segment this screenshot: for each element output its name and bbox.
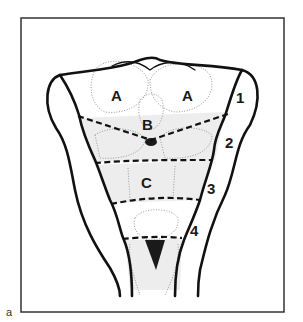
anatomical-diagram: A A B C 1 2 3 4 a bbox=[0, 0, 303, 322]
region-label-a-left: A bbox=[111, 87, 122, 104]
region-label-c: C bbox=[141, 174, 152, 191]
level-label-4: 4 bbox=[190, 222, 199, 239]
level-label-2: 2 bbox=[225, 134, 233, 151]
region-label-b: B bbox=[142, 116, 153, 133]
region-label-a-right: A bbox=[182, 87, 193, 104]
level-label-1: 1 bbox=[236, 89, 244, 106]
panel-label: a bbox=[6, 306, 13, 318]
level-label-3: 3 bbox=[207, 180, 215, 197]
